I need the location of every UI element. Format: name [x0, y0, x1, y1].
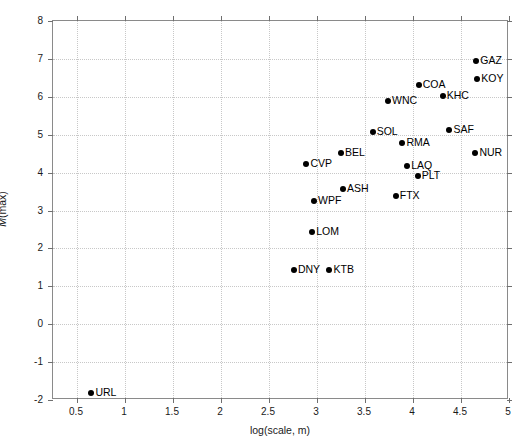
data-point-marker	[416, 82, 422, 88]
x-axis-tick	[221, 398, 222, 403]
y-axis-tick-label: 2	[37, 242, 43, 253]
y-axis-tick-label: 5	[37, 128, 43, 139]
x-axis-tick	[509, 16, 510, 21]
x-axis-tick	[221, 16, 222, 21]
data-point-marker	[440, 93, 446, 99]
data-point-label: LAQ	[411, 159, 432, 172]
gridline-horizontal	[53, 286, 507, 287]
data-point-label: LOM	[316, 225, 339, 238]
x-axis-tick	[413, 16, 414, 21]
data-point-label: CVP	[310, 157, 332, 170]
y-axis-tick	[48, 211, 53, 212]
y-axis-tick-label: 6	[37, 90, 43, 101]
data-point-marker	[291, 267, 297, 273]
y-axis-tick-label: 8	[37, 15, 43, 26]
gridline-vertical	[125, 21, 126, 398]
data-point-label: KHC	[447, 89, 469, 102]
y-axis-tick	[48, 21, 53, 22]
x-axis-tick-label: 4.5	[453, 406, 467, 417]
gridline-horizontal	[53, 97, 507, 98]
data-point-marker	[415, 173, 421, 179]
data-point-label: GAZ	[480, 54, 502, 67]
data-point-label: NUR	[479, 146, 502, 159]
x-axis-title: log(scale, m)	[52, 424, 508, 436]
gridline-vertical	[77, 21, 78, 398]
y-axis-title: M(max)	[0, 149, 8, 269]
x-axis-tick	[173, 398, 174, 403]
x-axis-tick	[365, 16, 366, 21]
data-point-marker	[326, 267, 332, 273]
y-axis-tick-label: 0	[37, 318, 43, 329]
x-axis-tick	[173, 16, 174, 21]
data-point-label: WPF	[318, 194, 341, 207]
y-axis-tick	[48, 324, 53, 325]
gridline-vertical	[269, 21, 270, 398]
gridline-horizontal	[53, 59, 507, 60]
x-axis-tick	[317, 398, 318, 403]
x-axis-tick	[461, 16, 462, 21]
gridline-vertical	[221, 21, 222, 398]
data-point-label: SOL	[377, 125, 398, 138]
x-axis-tick	[269, 16, 270, 21]
gridline-vertical	[365, 21, 366, 398]
y-axis-tick	[507, 135, 512, 136]
y-axis-tick	[507, 362, 512, 363]
data-point-label: RMA	[406, 136, 429, 149]
x-axis-tick	[413, 398, 414, 403]
x-axis-tick	[365, 398, 366, 403]
x-axis-tick-label: 1.5	[165, 406, 179, 417]
y-axis-tick	[48, 400, 53, 401]
data-point-label: ASH	[347, 182, 369, 195]
x-axis-tick-label: 1	[121, 406, 127, 417]
data-point-marker	[385, 98, 391, 104]
plot-area: URLDNYKTBLOMWPFASHFTXPLTLAQCVPBELNURRMAS…	[52, 20, 508, 399]
gridline-horizontal	[53, 362, 507, 363]
data-point-marker	[370, 129, 376, 135]
x-axis-tick-label: 2.5	[261, 406, 275, 417]
x-axis-tick-label: 0.5	[69, 406, 83, 417]
data-point-marker	[88, 390, 94, 396]
y-axis-tick	[507, 248, 512, 249]
x-axis-tick	[317, 16, 318, 21]
y-axis-tick-label: 4	[37, 166, 43, 177]
gridline-horizontal	[53, 324, 507, 325]
gridline-vertical	[461, 21, 462, 398]
data-point-marker	[473, 58, 479, 64]
y-axis-tick	[507, 286, 512, 287]
x-axis-tick	[509, 398, 510, 403]
y-axis-tick	[507, 211, 512, 212]
y-axis-tick	[48, 173, 53, 174]
y-axis-tick-label: -2	[34, 394, 43, 405]
y-axis-tick	[48, 97, 53, 98]
x-axis-tick	[269, 398, 270, 403]
data-point-label: KTB	[333, 263, 353, 276]
y-axis-tick	[48, 59, 53, 60]
data-point-label: DNY	[298, 263, 320, 276]
data-point-marker	[399, 140, 405, 146]
data-point-label: BEL	[345, 146, 365, 159]
scatter-chart-figure: URLDNYKTBLOMWPFASHFTXPLTLAQCVPBELNURRMAS…	[0, 0, 529, 445]
x-axis-tick	[461, 398, 462, 403]
data-point-marker	[338, 150, 344, 156]
data-point-marker	[309, 229, 315, 235]
data-point-marker	[303, 161, 309, 167]
data-point-marker	[446, 127, 452, 133]
y-axis-tick	[507, 21, 512, 22]
gridline-horizontal	[53, 211, 507, 212]
y-axis-tick-label: 7	[37, 52, 43, 63]
data-point-label: URL	[95, 386, 116, 399]
gridline-vertical	[413, 21, 414, 398]
x-axis-tick	[125, 398, 126, 403]
data-point-label: COA	[423, 78, 446, 91]
x-axis-tick-label: 3.5	[357, 406, 371, 417]
gridline-vertical	[173, 21, 174, 398]
y-axis-tick	[507, 173, 512, 174]
data-point-label: FTX	[400, 189, 420, 202]
y-axis-tick	[507, 324, 512, 325]
y-axis-tick-label: 1	[37, 280, 43, 291]
gridline-horizontal	[53, 248, 507, 249]
data-point-label: SAF	[453, 123, 473, 136]
data-point-marker	[340, 186, 346, 192]
x-axis-tick-label: 4	[409, 406, 415, 417]
y-axis-tick	[48, 248, 53, 249]
